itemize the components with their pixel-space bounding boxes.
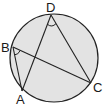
circle-diagram: D B A C <box>0 0 104 107</box>
label-C: C <box>93 80 102 95</box>
label-B: B <box>1 40 10 55</box>
label-A: A <box>16 92 25 107</box>
label-D: D <box>46 0 55 15</box>
